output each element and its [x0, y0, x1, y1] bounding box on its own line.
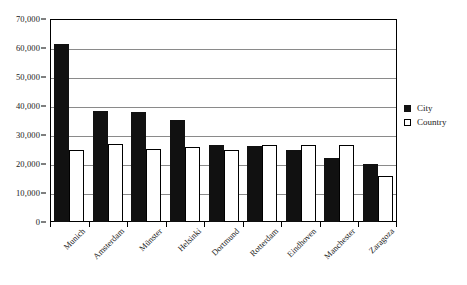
bar-chart: 010,00020,00030,00040,00050,00060,00070,… [0, 0, 467, 285]
bar [339, 145, 354, 222]
bar [209, 145, 224, 222]
legend-label: Country [417, 117, 447, 127]
y-tick-label: 10,000 [16, 189, 40, 198]
bar [108, 144, 123, 222]
legend-label: City [417, 103, 433, 113]
bar [324, 158, 339, 222]
bar-group [359, 19, 398, 222]
x-category-label: Munich [61, 226, 87, 252]
bar [286, 150, 301, 223]
bar [69, 150, 84, 223]
y-tick-mark [41, 77, 46, 78]
y-tick-label: 20,000 [16, 160, 40, 169]
bars-layer [50, 19, 397, 222]
bar [301, 145, 316, 222]
y-tick-mark [41, 106, 46, 107]
bar [131, 112, 146, 222]
bar-group [50, 19, 89, 222]
bar [93, 111, 108, 222]
bar [247, 146, 262, 222]
bar-group [127, 19, 166, 222]
filled-square-icon [404, 105, 411, 112]
bar [54, 44, 69, 222]
bar-group [243, 19, 282, 222]
bar [378, 176, 393, 222]
x-category-label: Eindhoven [285, 226, 318, 259]
bar-group [166, 19, 205, 222]
legend-item: Country [404, 115, 466, 129]
bar-group [89, 19, 128, 222]
x-category-label: Helsinki [175, 226, 202, 253]
y-tick-label: 40,000 [16, 102, 40, 111]
y-tick-label: 60,000 [16, 44, 40, 53]
bar [224, 150, 239, 223]
bar [262, 145, 277, 222]
y-tick-mark [41, 19, 46, 20]
bar-group [204, 19, 243, 222]
bar [170, 120, 185, 222]
x-category-label: Münster [137, 226, 164, 253]
y-tick-mark [41, 193, 46, 194]
bar [363, 164, 378, 222]
x-category-label: Amsterdam [91, 226, 126, 261]
y-tick-mark [41, 135, 46, 136]
y-tick-mark [41, 222, 46, 223]
x-axis-labels: MunichAmsterdamMünsterHelsinkiDortmundRo… [50, 226, 397, 284]
bar [185, 147, 200, 222]
x-category-label: Rotterdam [247, 226, 279, 258]
bar-group [320, 19, 359, 222]
y-axis: 010,00020,00030,00040,00050,00060,00070,… [0, 19, 46, 222]
y-tick-label: 30,000 [16, 131, 40, 140]
bar-group [281, 19, 320, 222]
y-tick-mark [41, 48, 46, 49]
x-category-label: Dortmund [210, 226, 242, 258]
chart-legend: CityCountry [404, 101, 466, 129]
x-category-label: Zaragoza [366, 226, 395, 255]
legend-item: City [404, 101, 466, 115]
y-tick-mark [41, 164, 46, 165]
y-tick-label: 70,000 [16, 15, 40, 24]
y-tick-label: 50,000 [16, 73, 40, 82]
x-category-label: Manchester [322, 226, 357, 261]
bar [146, 149, 161, 222]
hollow-square-icon [404, 119, 411, 126]
y-tick-label: 0 [36, 218, 40, 227]
